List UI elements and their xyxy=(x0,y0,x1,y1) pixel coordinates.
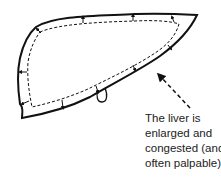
caption: The liver is enlarged and congested (and… xyxy=(145,111,221,171)
normal-liver-outline xyxy=(28,21,179,107)
pointer-arrow xyxy=(160,76,190,108)
caption-line-3: congested (and xyxy=(145,141,221,156)
caption-line-2: enlarged and xyxy=(145,126,221,141)
caption-line-1: The liver is xyxy=(145,111,221,126)
enlarged-liver-outline xyxy=(18,14,197,118)
caption-line-4: often palpable) xyxy=(145,156,221,171)
